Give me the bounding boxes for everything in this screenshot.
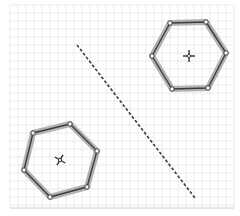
- geometry-grid-diagram: [0, 0, 240, 216]
- center-crosshair-icon[interactable]: [183, 50, 195, 62]
- vertex-handle[interactable]: [150, 54, 154, 58]
- background-grid: [10, 5, 234, 208]
- vertex-handle[interactable]: [48, 195, 52, 199]
- dashed-separator-line: [77, 45, 195, 198]
- diagram-canvas: [0, 0, 240, 216]
- vertex-handle[interactable]: [168, 21, 172, 25]
- vertex-handle[interactable]: [22, 168, 26, 172]
- vertex-handle[interactable]: [85, 185, 89, 189]
- vertex-handle[interactable]: [31, 131, 35, 135]
- vertex-handle[interactable]: [206, 86, 210, 90]
- vertex-handle[interactable]: [68, 122, 72, 126]
- hexagon-bottom-left[interactable]: [22, 122, 99, 199]
- vertex-handle[interactable]: [170, 87, 174, 91]
- vertex-handle[interactable]: [224, 51, 228, 55]
- hexagon-top-right[interactable]: [150, 20, 228, 91]
- vertex-handle[interactable]: [95, 149, 99, 153]
- vertex-handle[interactable]: [204, 20, 208, 24]
- polygon-shapes: [22, 20, 228, 199]
